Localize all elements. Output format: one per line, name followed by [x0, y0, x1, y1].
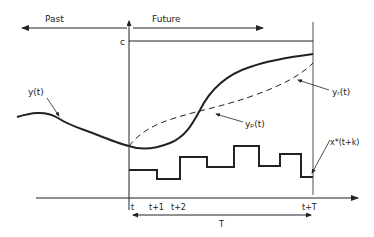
- tick-t: t: [131, 203, 134, 212]
- reference-trajectory-curve: [129, 63, 313, 146]
- mpc-horizon-diagram: Past Future c y(t) yₚ(t) yᵣ(t) x*(t+k) t…: [0, 0, 374, 237]
- tick-tT: t+T: [302, 203, 317, 212]
- measured-output-curve: [17, 113, 129, 146]
- horizon-label: T: [218, 220, 224, 229]
- control-sequence-steps: [129, 146, 313, 179]
- future-label: Future: [152, 14, 181, 24]
- yp-label-pointer: [216, 114, 243, 122]
- past-label: Past: [45, 14, 64, 24]
- predicted-output-curve: [129, 54, 313, 148]
- tick-t2: t+2: [171, 203, 186, 212]
- yp-label: yₚ(t): [245, 119, 265, 129]
- constraint-label: c: [120, 37, 125, 47]
- yr-label: yᵣ(t): [332, 87, 350, 97]
- yr-label-pointer: [298, 80, 329, 90]
- tick-t1: t+1: [149, 203, 164, 212]
- x-star-label: x*(t+k): [330, 138, 359, 147]
- y-label: y(t): [28, 87, 44, 97]
- x-star-label-pointer: [312, 140, 330, 173]
